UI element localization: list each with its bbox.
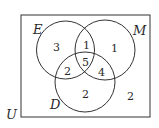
region-e-m-d: 5 [82,56,89,69]
region-m-only: 1 [111,42,118,55]
venn-diagram: E M D U 3 1 1 2 5 4 2 2 [0,0,159,128]
region-e-m-only: 1 [83,39,90,52]
region-e-only: 3 [53,41,60,54]
set-m-label: M [132,23,147,38]
universe-label: U [6,107,18,122]
set-d-label: D [49,97,61,112]
region-d-only: 2 [82,88,89,101]
region-e-d-only: 2 [64,65,71,78]
region-m-d-only: 4 [98,66,105,79]
region-outside: 2 [127,90,134,103]
set-e-label: E [32,22,43,37]
